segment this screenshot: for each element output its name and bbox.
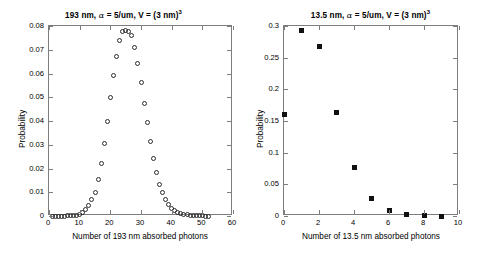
data-point xyxy=(282,112,287,117)
x-tick-label: 40 xyxy=(166,218,174,227)
y-tick-label: 0.2 xyxy=(253,84,279,93)
data-point xyxy=(96,177,101,182)
y-tick-right xyxy=(227,169,231,170)
y-tick xyxy=(49,26,53,27)
x-tick-top xyxy=(202,26,203,30)
y-tick xyxy=(49,97,53,98)
figure-canvas: 193 nm, α = 5/um, V = (3 nm)3 0102030405… xyxy=(0,0,493,259)
y-tick-right xyxy=(453,58,457,59)
y-tick-right xyxy=(227,121,231,122)
y-tick-label: 0.05 xyxy=(253,179,279,188)
y-axis-title-left: Probability xyxy=(18,110,27,148)
data-point xyxy=(439,214,444,219)
y-tick-label: 0.06 xyxy=(18,68,44,77)
data-series-left xyxy=(49,26,231,214)
x-tick-top xyxy=(354,26,355,30)
y-tick-right xyxy=(453,184,457,185)
y-tick-label: 0.07 xyxy=(18,44,44,53)
x-tick-label: 4 xyxy=(351,218,355,227)
x-tick-label: 2 xyxy=(316,218,320,227)
data-point xyxy=(117,38,122,43)
x-tick xyxy=(319,210,320,214)
x-tick xyxy=(172,210,173,214)
y-tick-right xyxy=(453,153,457,154)
x-tick-top xyxy=(233,26,234,30)
y-tick-right xyxy=(227,97,231,98)
data-point xyxy=(83,207,88,212)
y-tick xyxy=(284,184,288,185)
x-tick xyxy=(284,210,285,214)
data-point xyxy=(93,190,98,195)
data-point xyxy=(114,54,119,59)
x-tick-label: 60 xyxy=(228,218,236,227)
y-tick-label: 0.02 xyxy=(18,163,44,172)
chart-title-left-mid: = 5/um, V = (3 nm) xyxy=(104,11,178,20)
data-point xyxy=(111,73,116,78)
x-tick xyxy=(80,210,81,214)
chart-title-right: 13.5 nm, α = 5/um, V = (3 nm)3 xyxy=(283,9,458,20)
x-tick xyxy=(110,210,111,214)
data-point xyxy=(352,165,357,170)
y-tick-label: 0.08 xyxy=(18,21,44,30)
data-point xyxy=(299,28,304,33)
y-tick xyxy=(49,74,53,75)
chart-title-left-superscript: 3 xyxy=(179,9,182,15)
y-axis-title-right: Probability xyxy=(256,110,265,148)
plot-area-left xyxy=(48,25,232,215)
y-tick-label: 0 xyxy=(18,211,44,220)
y-tick-right xyxy=(453,121,457,122)
data-point xyxy=(145,120,150,125)
y-tick xyxy=(49,216,53,217)
x-tick xyxy=(233,210,234,214)
x-tick-label: 6 xyxy=(386,218,390,227)
chart-title-left-prefix: 193 nm, xyxy=(65,11,99,20)
x-tick-label: 10 xyxy=(74,218,82,227)
y-tick xyxy=(49,145,53,146)
y-tick-right xyxy=(227,50,231,51)
y-tick xyxy=(49,121,53,122)
y-tick-right xyxy=(453,216,457,217)
data-point xyxy=(369,196,374,201)
y-tick-right xyxy=(227,74,231,75)
data-point xyxy=(160,190,165,195)
x-tick-label: 0 xyxy=(281,218,285,227)
data-series-right xyxy=(284,26,457,214)
y-tick-label: 0.25 xyxy=(253,52,279,61)
data-point xyxy=(142,101,147,106)
y-tick-right xyxy=(453,89,457,90)
chart-title-right-mid: = 5/um, V = (3 nm) xyxy=(352,11,426,20)
data-point xyxy=(151,156,156,161)
x-axis-title-left: Number of 193 nm absorbed photons xyxy=(72,232,208,241)
y-tick-right xyxy=(227,216,231,217)
data-point xyxy=(317,44,322,49)
data-point xyxy=(108,95,113,100)
x-tick-label: 30 xyxy=(136,218,144,227)
x-tick-top xyxy=(172,26,173,30)
y-tick-label: 0.05 xyxy=(18,92,44,101)
y-tick xyxy=(49,169,53,170)
data-point xyxy=(132,45,137,50)
x-tick xyxy=(49,210,50,214)
x-tick xyxy=(354,210,355,214)
y-tick-label: 0.3 xyxy=(253,21,279,30)
x-tick xyxy=(424,210,425,214)
x-tick xyxy=(141,210,142,214)
data-point xyxy=(102,141,107,146)
x-tick-top xyxy=(110,26,111,30)
y-tick xyxy=(49,50,53,51)
y-tick xyxy=(284,216,288,217)
chart-title-right-superscript: 3 xyxy=(427,9,430,15)
y-tick xyxy=(284,58,288,59)
x-tick xyxy=(459,210,460,214)
y-tick xyxy=(284,26,288,27)
data-point xyxy=(148,139,153,144)
y-tick xyxy=(284,89,288,90)
y-tick-label: 0.1 xyxy=(253,147,279,156)
data-point xyxy=(404,212,409,217)
y-tick xyxy=(49,192,53,193)
y-tick xyxy=(284,153,288,154)
x-tick-label: 8 xyxy=(421,218,425,227)
x-tick-top xyxy=(141,26,142,30)
data-point xyxy=(206,214,211,219)
plot-area-right xyxy=(283,25,458,215)
